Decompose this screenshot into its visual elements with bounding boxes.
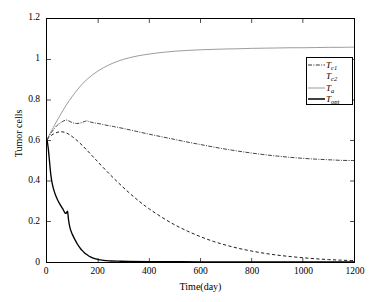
legend-item-ta[interactable]: Ta: [307, 82, 352, 94]
y-tick-label: 0: [0, 258, 40, 268]
x-axis-label: Time(day): [46, 281, 355, 292]
legend-line-dashed-icon: [308, 71, 325, 81]
x-tick-label: 1000: [294, 267, 313, 277]
series-line-t_c1: [47, 120, 354, 161]
legend-line-dashdot-icon: [308, 60, 325, 70]
plot-area: [46, 18, 355, 263]
legend-label-ta: Ta: [326, 83, 334, 93]
legend[interactable]: Tc1 Tc2 Ta Topt: [306, 57, 353, 105]
figure-container: 00.20.40.60.811.2 Tumor cells 0200400600…: [0, 0, 374, 302]
legend-item-topt[interactable]: Topt: [307, 94, 352, 106]
series-line-t_c2: [47, 132, 354, 261]
y-tick-label: 1.2: [0, 13, 40, 23]
legend-line-solid-thin-icon: [308, 83, 325, 93]
y-tick-label: 1: [0, 54, 40, 64]
x-tick-label: 800: [245, 267, 259, 277]
x-tick-label: 0: [44, 267, 49, 277]
legend-line-solid-thick-icon: [308, 94, 325, 104]
legend-item-tc2[interactable]: Tc2: [307, 71, 352, 83]
legend-label-tc1: Tc1: [326, 60, 337, 70]
x-tick-label: 400: [142, 267, 156, 277]
x-tick-label: 600: [193, 267, 207, 277]
series-line-t_opt: [47, 139, 354, 261]
plot-svg: [47, 19, 354, 262]
x-tick-label: 1200: [346, 267, 365, 277]
y-axis-label: Tumor cells: [13, 89, 24, 179]
y-tick-label: 0.2: [0, 217, 40, 227]
legend-label-tc2: Tc2: [326, 71, 337, 81]
x-tick-label: 200: [90, 267, 104, 277]
legend-label-topt: Topt: [326, 94, 339, 104]
legend-item-tc1[interactable]: Tc1: [307, 59, 352, 71]
